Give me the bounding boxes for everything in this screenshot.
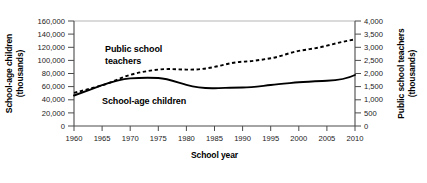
- right-tick-label: 2,000: [364, 69, 383, 78]
- series-annotation-teachers-line1: Public school: [105, 44, 162, 54]
- right-tick-label: 4,000: [364, 17, 383, 26]
- chart-svg: 0 20,000 40,000 60,000 80,000 100,000 12…: [0, 0, 427, 183]
- right-axis-title-line2: (thousands): [407, 49, 417, 97]
- x-tick-label: 2010: [347, 134, 364, 143]
- x-tick-label: 1995: [262, 134, 279, 143]
- x-tick-label: 2005: [318, 134, 335, 143]
- chart-figure: 0 20,000 40,000 60,000 80,000 100,000 12…: [0, 0, 427, 183]
- left-tick-label: 80,000: [42, 69, 65, 78]
- x-tick-label: 1965: [94, 134, 111, 143]
- left-tick-label: 20,000: [42, 109, 65, 118]
- right-axis-title-line1: Public school teachers: [396, 28, 406, 119]
- x-axis-ticks: [74, 126, 355, 131]
- plot-area-background: [74, 21, 355, 126]
- x-tick-label: 1970: [122, 134, 139, 143]
- left-tick-label: 40,000: [42, 95, 65, 104]
- left-tick-label: 120,000: [38, 43, 65, 52]
- right-tick-label: 0: [364, 122, 368, 131]
- left-tick-label: 0: [61, 122, 65, 131]
- x-tick-label: 1960: [66, 134, 83, 143]
- right-tick-label: 500: [364, 109, 377, 118]
- x-tick-label: 1985: [206, 134, 223, 143]
- left-tick-label: 60,000: [42, 82, 65, 91]
- x-axis-title: School year: [191, 150, 239, 160]
- right-tick-label: 3,500: [364, 30, 383, 39]
- left-tick-label: 100,000: [38, 56, 65, 65]
- right-tick-label: 1,500: [364, 82, 383, 91]
- right-tick-label: 1,000: [364, 95, 383, 104]
- left-tick-label: 160,000: [38, 17, 65, 26]
- x-tick-label: 1980: [178, 134, 195, 143]
- right-tick-label: 3,000: [364, 43, 383, 52]
- left-axis-title-line1: School-age children: [4, 34, 14, 113]
- left-axis-ticks: [68, 21, 74, 126]
- x-tick-label: 2000: [290, 134, 307, 143]
- right-axis-ticks: [355, 21, 361, 126]
- x-tick-label: 1975: [150, 134, 167, 143]
- right-tick-label: 2,500: [364, 56, 383, 65]
- right-axis-tick-labels: 0 500 1,000 1,500 2,000 2,500 3,000 3,50…: [364, 17, 383, 131]
- x-tick-label: 1990: [234, 134, 251, 143]
- series-annotation-teachers-line2: teachers: [105, 56, 141, 66]
- x-axis-tick-labels: 1960 1965 1970 1975 1980 1985 1990 1995 …: [66, 134, 364, 143]
- left-axis-tick-labels: 0 20,000 40,000 60,000 80,000 100,000 12…: [38, 17, 65, 131]
- left-tick-label: 140,000: [38, 30, 65, 39]
- series-annotation-children: School-age children: [102, 96, 186, 106]
- left-axis-title-line2: (thousands): [15, 49, 25, 97]
